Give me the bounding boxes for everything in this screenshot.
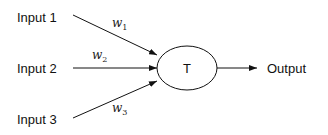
weight-1-label: w1: [112, 16, 127, 32]
input-2-label: Input 2: [17, 61, 57, 76]
node-label: T: [183, 61, 191, 76]
weight-3-label: w3: [112, 101, 127, 117]
output-label: Output: [267, 61, 306, 76]
diagram-svg: Input 1 Input 2 Input 3 w1 w2 w3 T Outpu…: [0, 0, 328, 135]
input-1-label: Input 1: [17, 10, 57, 25]
weight-2-label: w2: [92, 48, 107, 64]
input-3-label: Input 3: [17, 112, 57, 127]
perceptron-diagram: Input 1 Input 2 Input 3 w1 w2 w3 T Outpu…: [0, 0, 328, 135]
